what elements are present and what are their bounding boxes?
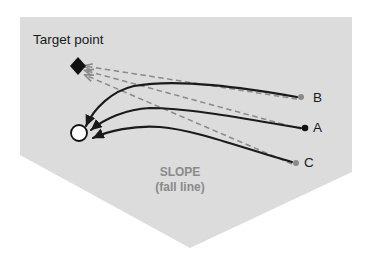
point-a-label: A bbox=[313, 121, 322, 135]
slope-label-line2: (fall line) bbox=[130, 181, 230, 193]
slope-region bbox=[20, 17, 352, 248]
slope-label-line1: SLOPE bbox=[160, 165, 201, 179]
target-point-label: Target point bbox=[33, 33, 104, 47]
point-b-dot bbox=[298, 94, 304, 100]
slope-label: SLOPE (fall line) bbox=[130, 166, 230, 193]
point-c-dot bbox=[293, 160, 299, 166]
point-c-label: C bbox=[304, 156, 314, 170]
point-b-label: B bbox=[313, 91, 322, 105]
slope-target-point-figure: Target point B A C SLOPE (fall line) bbox=[0, 0, 378, 267]
skier-open-circle-marker bbox=[71, 125, 87, 141]
point-a-dot bbox=[302, 125, 309, 132]
